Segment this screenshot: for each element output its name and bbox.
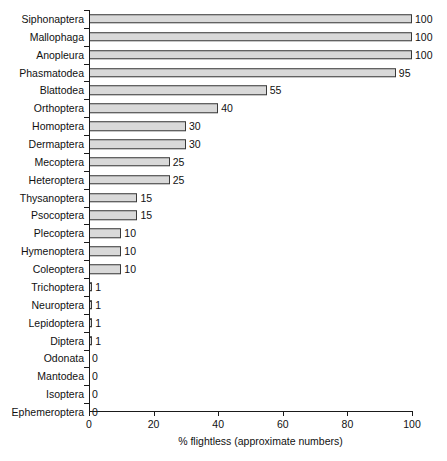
chart-row: Trichoptera1	[0, 278, 447, 296]
category-label: Homoptera	[32, 120, 84, 132]
bar	[89, 175, 170, 185]
x-axis-tick	[218, 411, 219, 416]
chart-row: Neuroptera1	[0, 296, 447, 314]
bar-value-label: 1	[95, 335, 101, 347]
chart-row: Plecoptera10	[0, 224, 447, 242]
category-label: Phasmatodea	[19, 67, 84, 79]
chart-rows: Siphonaptera100Mallophaga100Anopleura100…	[0, 0, 447, 401]
chart-row: Psocoptera15	[0, 207, 447, 225]
x-axis-tick-label: 60	[277, 418, 289, 430]
category-label: Orthoptera	[34, 102, 84, 114]
bar	[89, 246, 121, 256]
category-label: Ephemeroptera	[12, 406, 84, 418]
category-label: Psocoptera	[31, 209, 84, 221]
category-label: Plecoptera	[34, 227, 84, 239]
category-label: Lepidoptera	[29, 317, 84, 329]
bar-value-label: 100	[415, 13, 433, 25]
flightless-insects-bar-chart: Siphonaptera100Mallophaga100Anopleura100…	[0, 0, 447, 461]
chart-row: Siphonaptera100	[0, 10, 447, 28]
category-label: Mecoptera	[34, 156, 84, 168]
bar	[89, 14, 412, 24]
bar-value-label: 15	[140, 192, 152, 204]
bar-value-label: 95	[399, 67, 411, 79]
category-label: Anopleura	[36, 49, 84, 61]
category-label: Mantodea	[37, 370, 84, 382]
bar-value-label: 30	[189, 120, 201, 132]
bar-value-label: 40	[221, 102, 233, 114]
bar	[89, 157, 170, 167]
x-axis-tick-label: 20	[148, 418, 160, 430]
chart-row: Mecoptera25	[0, 153, 447, 171]
chart-row: Phasmatodea95	[0, 64, 447, 82]
category-label: Siphonaptera	[22, 13, 84, 25]
bar	[89, 121, 186, 131]
chart-row: Coleoptera10	[0, 260, 447, 278]
chart-row: Blattodea55	[0, 81, 447, 99]
bar	[89, 264, 121, 274]
bar-value-label: 0	[92, 406, 98, 418]
chart-row: Thysanoptera15	[0, 189, 447, 207]
chart-row: Lepidoptera1	[0, 314, 447, 332]
category-label: Heteroptera	[29, 174, 84, 186]
bar-value-label: 100	[415, 31, 433, 43]
chart-row: Anopleura100	[0, 46, 447, 64]
bar	[89, 32, 412, 42]
x-axis-tick	[283, 411, 284, 416]
x-axis-tick-label: 80	[342, 418, 354, 430]
chart-row: Odonata0	[0, 350, 447, 368]
bar-value-label: 10	[124, 245, 136, 257]
chart-row: Mantodea0	[0, 367, 447, 385]
x-axis-tick	[89, 411, 90, 416]
bar-value-label: 0	[92, 352, 98, 364]
bar-value-label: 15	[140, 209, 152, 221]
x-axis-title: % flightless (approximate numbers)	[0, 435, 447, 447]
bar-value-label: 30	[189, 138, 201, 150]
x-axis-tick	[154, 411, 155, 416]
category-label: Odonata	[44, 352, 84, 364]
x-axis-tick-label: 0	[86, 418, 92, 430]
x-axis-line	[89, 411, 413, 412]
bar	[89, 50, 412, 60]
chart-row: Hymenoptera10	[0, 242, 447, 260]
bar-value-label: 0	[92, 388, 98, 400]
category-label: Hymenoptera	[21, 245, 84, 257]
bar-value-label: 100	[415, 49, 433, 61]
category-label: Coleoptera	[33, 263, 84, 275]
chart-row: Homoptera30	[0, 117, 447, 135]
x-axis-tick-label: 100	[403, 418, 421, 430]
bar-value-label: 25	[173, 174, 185, 186]
x-axis-tick-label: 40	[212, 418, 224, 430]
bar	[89, 86, 267, 96]
bar-value-label: 1	[95, 281, 101, 293]
bar	[89, 139, 186, 149]
chart-row: Heteroptera25	[0, 171, 447, 189]
bar	[89, 104, 218, 114]
bar-value-label: 55	[270, 84, 282, 96]
bar	[89, 193, 137, 203]
chart-row: Dermaptera30	[0, 135, 447, 153]
bar-value-label: 1	[95, 299, 101, 311]
category-label: Blattodea	[40, 84, 84, 96]
category-label: Diptera	[50, 335, 84, 347]
bar-value-label: 1	[95, 317, 101, 329]
category-label: Dermaptera	[29, 138, 84, 150]
chart-row: Orthoptera40	[0, 99, 447, 117]
chart-row: Mallophaga100	[0, 28, 447, 46]
chart-row: Diptera1	[0, 332, 447, 350]
category-label: Thysanoptera	[20, 192, 84, 204]
bar	[89, 68, 396, 78]
bar-value-label: 25	[173, 156, 185, 168]
category-label: Neuroptera	[31, 299, 84, 311]
x-axis-title-text: % flightless (approximate numbers)	[178, 435, 343, 447]
bar	[89, 211, 137, 221]
chart-row: Isoptera0	[0, 385, 447, 403]
x-axis-tick	[347, 411, 348, 416]
category-label: Isoptera	[46, 388, 84, 400]
bar	[89, 229, 121, 239]
category-label: Mallophaga	[30, 31, 84, 43]
bar-value-label: 0	[92, 370, 98, 382]
bar-value-label: 10	[124, 263, 136, 275]
category-label: Trichoptera	[31, 281, 84, 293]
x-axis-tick	[412, 411, 413, 416]
bar-value-label: 10	[124, 227, 136, 239]
